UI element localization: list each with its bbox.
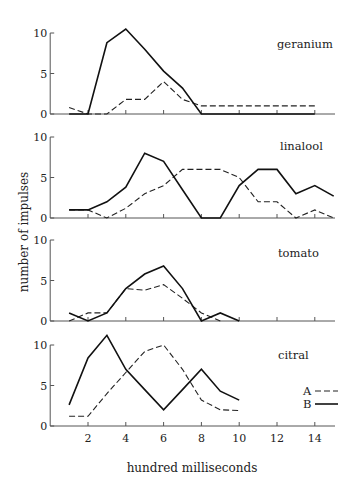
legend-label-a: A bbox=[302, 384, 312, 398]
series-a-line bbox=[69, 169, 334, 218]
y-tick-label: 10 bbox=[33, 234, 47, 247]
legend: A B bbox=[302, 384, 338, 411]
y-tick-label: 0 bbox=[40, 108, 47, 121]
y-tick-label: 10 bbox=[33, 339, 47, 352]
x-tick-label: 14 bbox=[308, 432, 322, 445]
series-a-line bbox=[69, 82, 315, 114]
series-a-line bbox=[69, 345, 239, 416]
x-tick-label: 4 bbox=[122, 432, 129, 445]
panel-title: linalool bbox=[280, 139, 323, 153]
olfactory-response-chart: number of impulses 0510geranium0510linal… bbox=[0, 0, 356, 480]
panel-tomato: 0510tomato bbox=[33, 234, 335, 328]
y-tick-label: 5 bbox=[40, 68, 47, 81]
x-tick-label: 6 bbox=[160, 432, 167, 445]
y-tick-label: 0 bbox=[40, 315, 47, 328]
series-b-line bbox=[69, 153, 334, 218]
panel-title: geranium bbox=[277, 37, 333, 51]
x-tick-label: 12 bbox=[270, 432, 284, 445]
x-tick-label: 10 bbox=[232, 432, 246, 445]
y-tick-label: 5 bbox=[40, 172, 47, 185]
series-b-line bbox=[69, 335, 239, 410]
y-tick-label: 5 bbox=[40, 380, 47, 393]
x-axis-ticks: 2468101214 bbox=[85, 432, 322, 445]
x-tick-label: 8 bbox=[198, 432, 205, 445]
panel-citral: 0510citral bbox=[33, 335, 335, 433]
panel-geranium: 0510geranium bbox=[33, 27, 335, 121]
y-tick-label: 5 bbox=[40, 275, 47, 288]
panel-title: citral bbox=[278, 348, 309, 362]
y-tick-label: 10 bbox=[33, 131, 47, 144]
x-tick-label: 2 bbox=[85, 432, 92, 445]
panel-title: tomato bbox=[278, 246, 319, 260]
x-axis-label: hundred milliseconds bbox=[127, 461, 258, 475]
legend-label-b: B bbox=[303, 397, 311, 411]
y-tick-label: 0 bbox=[40, 420, 47, 433]
y-tick-label: 0 bbox=[40, 212, 47, 225]
panel-linalool: 0510linalool bbox=[33, 131, 335, 225]
y-axis-label: number of impulses bbox=[17, 172, 31, 293]
panels: 0510geranium0510linalool0510tomato0510ci… bbox=[33, 27, 335, 433]
y-tick-label: 10 bbox=[33, 27, 47, 40]
